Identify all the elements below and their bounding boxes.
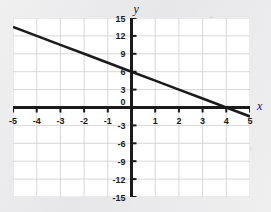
x-axis-label: x — [256, 99, 263, 113]
x-tick-label: 5 — [247, 116, 252, 126]
x-tick-label: -1 — [104, 116, 112, 126]
x-tick-label: 3 — [200, 116, 205, 126]
x-tick-label: 1 — [153, 116, 158, 126]
y-tick-label: -9 — [117, 157, 125, 167]
y-tick-label: 15 — [115, 14, 125, 24]
x-tick-label: -5 — [9, 116, 17, 126]
origin-label: 0 — [120, 97, 125, 107]
y-tick-label: 6 — [120, 67, 125, 77]
y-tick-label: 9 — [120, 49, 125, 59]
y-tick-labels: -15-12-9-6-33691215 — [112, 14, 125, 203]
y-tick-label: -15 — [112, 193, 125, 203]
y-tick-label: 3 — [120, 85, 125, 95]
y-tick-label: -12 — [112, 175, 125, 185]
chart-labels: -5-4-3-2-112345 -15-12-9-6-33691215 x y … — [0, 0, 260, 200]
y-axis-label: y — [133, 2, 140, 16]
x-tick-labels: -5-4-3-2-112345 — [9, 116, 253, 126]
x-tick-label: -3 — [56, 116, 64, 126]
y-tick-label: -3 — [117, 121, 125, 131]
x-tick-label: 2 — [176, 116, 181, 126]
x-tick-label: 4 — [224, 116, 229, 126]
x-tick-label: -2 — [80, 116, 88, 126]
x-tick-label: -4 — [33, 116, 41, 126]
chart-plot-area: -5-4-3-2-112345 -15-12-9-6-33691215 x y … — [13, 18, 250, 197]
y-tick-label: -6 — [117, 139, 125, 149]
y-tick-label: 12 — [115, 31, 125, 41]
